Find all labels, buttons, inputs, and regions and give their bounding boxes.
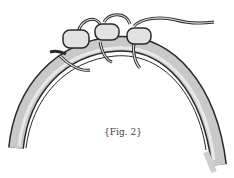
figure-caption: {Fig. 2} bbox=[98, 127, 148, 137]
bead-2 bbox=[95, 24, 119, 40]
bead-3 bbox=[127, 28, 151, 44]
bracelet-illustration bbox=[0, 0, 234, 178]
bead-1 bbox=[63, 30, 89, 48]
bangle-band bbox=[16, 44, 219, 172]
